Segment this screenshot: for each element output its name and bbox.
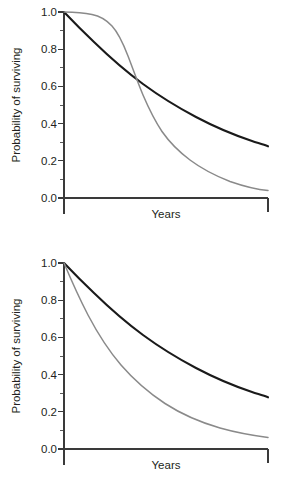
chart-panel-bottom: 1.0 0.8 0.6 0.4 0.2 0.0	[0, 251, 294, 502]
y-tick-labels-top: 1.0 0.8 0.6 0.4 0.2 0.0	[41, 6, 58, 204]
chart-svg-bottom: 1.0 0.8 0.6 0.4 0.2 0.0	[0, 251, 294, 502]
y-tick-label-0.2: 0.2	[41, 406, 57, 418]
y-tick-label-0.0: 0.0	[41, 443, 57, 455]
y-tick-label-0.2: 0.2	[41, 155, 57, 167]
y-tick-label-1.0: 1.0	[41, 6, 57, 18]
curve-exponential-slow-bottom	[64, 263, 268, 397]
y-axis-title-top: Probability of surviving	[10, 47, 22, 162]
y-tick-label-0.8: 0.8	[41, 43, 57, 55]
y-tick-label-1.0: 1.0	[41, 257, 57, 269]
y-tick-label-0.4: 0.4	[41, 118, 58, 130]
y-tick-label-0.8: 0.8	[41, 294, 57, 306]
x-axis-title-top: Years	[152, 208, 181, 220]
curve-exponential-top	[64, 12, 268, 146]
y-tick-label-0.4: 0.4	[41, 369, 58, 381]
y-tick-label-0.6: 0.6	[41, 331, 57, 343]
x-axis-title-bottom: Years	[152, 459, 181, 471]
y-tick-labels-bottom: 1.0 0.8 0.6 0.4 0.2 0.0	[41, 257, 58, 455]
y-axis-title-bottom: Probability of surviving	[10, 298, 22, 413]
chart-panel-top: 1.0 0.8 0.6 0.4 0.2 0.0	[0, 0, 294, 251]
y-axis-ticks-top	[58, 12, 65, 198]
chart-svg-top: 1.0 0.8 0.6 0.4 0.2 0.0	[0, 0, 294, 251]
survival-curves-figure: 1.0 0.8 0.6 0.4 0.2 0.0	[0, 0, 294, 502]
curve-weibull-top	[64, 12, 268, 191]
y-axis-ticks-bottom	[58, 263, 65, 449]
y-tick-label-0.0: 0.0	[41, 192, 57, 204]
y-tick-label-0.6: 0.6	[41, 80, 57, 92]
